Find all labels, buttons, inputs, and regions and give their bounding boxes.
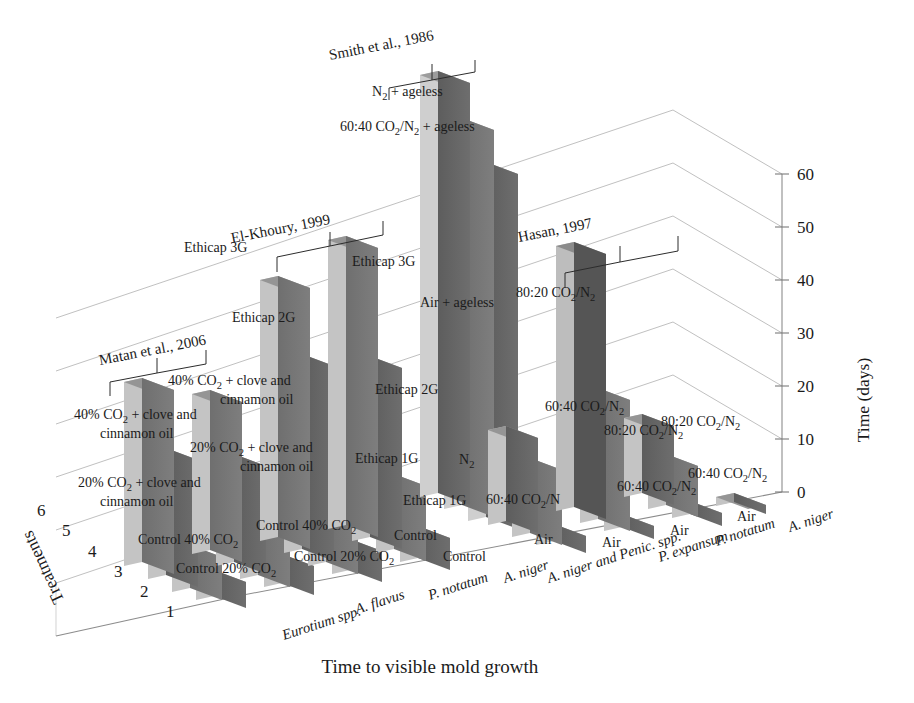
bar-label-ethicap2g-a: Ethicap 2G — [232, 310, 295, 325]
bar-label-ethicap3g-b: Ethicap 3G — [352, 254, 415, 269]
y-tick-1: 1 — [166, 602, 175, 621]
bar — [488, 426, 538, 533]
bar-label-control-b: Control — [443, 549, 486, 564]
bar-label-ethicap2g-b: Ethicap 2G — [375, 382, 438, 397]
bar-label-clove20-b-line2: cinnamon oil — [240, 459, 314, 474]
y-tick-2: 2 — [140, 582, 149, 601]
bar-label-air-1: Air — [534, 532, 553, 547]
z-tick-0: 0 — [797, 483, 806, 502]
bar-label-clove40-b-line2: cinnamon oil — [220, 392, 294, 407]
figure-title: Time to visible mold growth — [322, 656, 539, 677]
y-tick-6: 6 — [37, 501, 46, 520]
ref-label-matan: Matan et al., 2006 — [98, 331, 208, 368]
bar-label-clove40-a-line2: cinnamon oil — [100, 426, 174, 441]
y-tick-3: 3 — [114, 562, 123, 581]
z-axis: 0 10 20 30 40 50 60 Time (days) — [775, 165, 873, 502]
z-axis-title: Time (days) — [853, 358, 873, 443]
category-label-a-niger-1: A. niger — [500, 556, 551, 586]
bar — [556, 242, 606, 519]
ref-label-smith: Smith et al., 1986 — [328, 27, 436, 63]
y-axis-title: Treatments — [17, 528, 68, 607]
z-tick-30: 30 — [797, 324, 814, 343]
bar — [420, 71, 470, 505]
bar-label-ethicap1g-b: Ethicap 1G — [403, 493, 466, 508]
z-tick-40: 40 — [797, 271, 814, 290]
y-tick-5: 5 — [62, 521, 71, 540]
z-tick-20: 20 — [797, 377, 814, 396]
bar-label-ethicap3g-a: Ethicap 3G — [184, 240, 247, 255]
chart-root: 0 10 20 30 40 50 60 Time (days) 6 5 4 3 … — [0, 0, 914, 703]
category-label-a-niger-2: A. niger — [785, 505, 836, 535]
three-d-bar-chart: 0 10 20 30 40 50 60 Time (days) 6 5 4 3 … — [0, 0, 914, 703]
category-label-a-flavus: A. flavus — [352, 586, 406, 617]
z-tick-50: 50 — [797, 218, 814, 237]
y-tick-4: 4 — [88, 542, 97, 561]
bar-label-clove20-a-line2: cinnamon oil — [100, 494, 174, 509]
z-tick-60: 60 — [797, 165, 814, 184]
bar-label-ethicap1g-a: Ethicap 1G — [355, 451, 418, 466]
category-label-p-notatum-1: P. notatum — [425, 569, 490, 604]
bar — [328, 236, 378, 537]
ref-label-hasan: Hasan, 1997 — [517, 215, 594, 245]
bar-label-air-ageless: Air + ageless — [420, 295, 494, 310]
bar-label-control-a: Control — [394, 528, 437, 543]
bar-label-6040-d: 60:40 CO2/N2 — [688, 466, 767, 484]
category-label-eurotium: Eurotium spp. — [279, 602, 363, 643]
z-tick-10: 10 — [797, 430, 814, 449]
